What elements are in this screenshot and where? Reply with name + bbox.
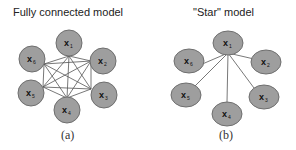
panel-b-caption: (b): [219, 128, 233, 142]
edge-x3-x4: [67, 89, 91, 98]
node-b-x6: x 6: [174, 49, 204, 73]
svg-text:x: x: [27, 54, 32, 64]
panel-a-title: Fully connected model: [13, 6, 123, 18]
node-b-x2: x 2: [251, 50, 281, 74]
svg-text:6: 6: [33, 59, 36, 65]
panel-star: "Star" model x 1 x 2 x 3 x 4: [171, 6, 281, 142]
svg-text:2: 2: [104, 61, 107, 67]
svg-text:x: x: [64, 38, 69, 48]
edge-x5-x6: [43, 64, 44, 87]
svg-text:6: 6: [190, 61, 193, 67]
svg-text:x: x: [259, 92, 264, 102]
panel-fully-connected: Fully connected model x 1 x: [13, 6, 123, 142]
node-a-x3: x 3: [91, 82, 117, 108]
panel-a-caption: (a): [61, 128, 74, 142]
svg-text:x: x: [223, 38, 228, 48]
edge-x2-x4: [67, 61, 91, 98]
svg-text:5: 5: [187, 95, 190, 101]
svg-text:x: x: [98, 56, 103, 66]
fully-connected-edges: [43, 56, 91, 98]
svg-text:2: 2: [267, 62, 270, 68]
node-a-x6: x 6: [19, 46, 45, 72]
svg-text:x: x: [184, 56, 189, 66]
svg-text:x: x: [261, 57, 266, 67]
node-b-x4: x 4: [212, 102, 242, 126]
svg-text:x: x: [62, 105, 67, 115]
edge-hub-x4: [227, 53, 228, 102]
node-b-x3: x 3: [249, 85, 279, 109]
svg-text:x: x: [181, 90, 186, 100]
svg-text:1: 1: [229, 43, 232, 49]
svg-text:5: 5: [32, 93, 35, 99]
node-a-x2: x 2: [90, 48, 116, 74]
edge-x2-x5: [43, 61, 91, 87]
node-a-x1: x 1: [56, 30, 82, 56]
svg-text:3: 3: [105, 95, 108, 101]
svg-text:x: x: [99, 90, 104, 100]
svg-text:x: x: [222, 109, 227, 119]
svg-text:3: 3: [265, 97, 268, 103]
svg-text:4: 4: [228, 114, 231, 120]
svg-text:1: 1: [70, 43, 73, 49]
panel-b-title: "Star" model: [193, 6, 254, 18]
svg-text:x: x: [26, 88, 31, 98]
node-a-x4: x 4: [54, 97, 80, 123]
node-b-x5: x 5: [171, 83, 201, 107]
node-b-x1: x 1: [213, 31, 243, 55]
edge-x3-x5: [43, 87, 91, 89]
node-a-x5: x 5: [18, 80, 44, 106]
diagram-canvas: Fully connected model x 1 x: [0, 0, 296, 150]
svg-text:4: 4: [68, 110, 71, 116]
